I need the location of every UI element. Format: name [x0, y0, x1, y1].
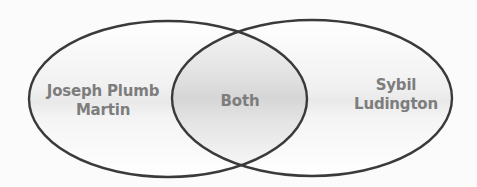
- intersection-label: Both: [205, 92, 275, 111]
- set-left-label-line-2: Martin: [28, 101, 178, 120]
- set-right-label-line-2: Ludington: [346, 95, 446, 114]
- set-left-label-line-1: Joseph Plumb: [28, 82, 178, 101]
- set-left-label: Joseph Plumb Martin: [28, 82, 178, 120]
- set-right-label-line-1: Sybil: [346, 76, 446, 95]
- set-right-label: Sybil Ludington: [346, 76, 446, 114]
